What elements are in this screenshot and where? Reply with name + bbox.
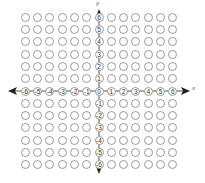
x-tick-label: -2: [69, 87, 80, 96]
y-tick-label: -3: [94, 123, 105, 132]
grid-circle: [58, 99, 67, 108]
y-tick-label: 2: [94, 62, 105, 71]
x-tick-label: 1: [106, 87, 117, 96]
y-tick-label: 3: [94, 50, 105, 59]
grid-circle: [107, 13, 116, 22]
grid-circle: [168, 13, 177, 22]
grid-circle: [45, 136, 54, 145]
grid-circle: [156, 50, 165, 59]
grid-circle: [107, 148, 116, 157]
grid-circle: [144, 74, 153, 83]
grid-circle: [58, 74, 67, 83]
grid-circle: [21, 148, 30, 157]
x-tick-label: 2: [118, 87, 129, 96]
x-tick-label: -4: [44, 87, 55, 96]
grid-circle: [144, 25, 153, 34]
grid-circle: [21, 111, 30, 120]
grid-circle: [156, 25, 165, 34]
grid-circle: [156, 148, 165, 157]
grid-circle: [156, 136, 165, 145]
grid-circle: [119, 136, 128, 145]
grid-circle: [21, 136, 30, 145]
grid-circle: [33, 136, 42, 145]
grid-circle: [107, 74, 116, 83]
y-tick-label: 4: [94, 37, 105, 46]
grid-circle: [70, 148, 79, 157]
grid-circle: [21, 37, 30, 46]
grid-circle: [156, 13, 165, 22]
y-tick-label: -1: [94, 99, 105, 108]
grid-circle: [156, 62, 165, 71]
y-tick-label: -5: [94, 148, 105, 157]
grid-circle: [58, 111, 67, 120]
y-tick-label: -6: [94, 160, 105, 169]
grid-circle: [70, 25, 79, 34]
grid-circle: [21, 160, 30, 169]
grid-circle: [119, 62, 128, 71]
grid-circle: [70, 99, 79, 108]
grid-circle: [82, 99, 91, 108]
grid-circle: [33, 99, 42, 108]
grid-circle: [21, 50, 30, 59]
grid-circle: [168, 50, 177, 59]
grid-circle: [33, 25, 42, 34]
grid-circle: [107, 50, 116, 59]
y-tick-label: 1: [94, 74, 105, 83]
x-tick-label: -5: [32, 87, 43, 96]
grid-circle: [21, 13, 30, 22]
grid-circle: [21, 62, 30, 71]
grid-circle: [144, 111, 153, 120]
grid-circle: [107, 136, 116, 145]
grid-circle: [21, 99, 30, 108]
grid-circle: [144, 136, 153, 145]
grid-circle: [58, 50, 67, 59]
grid-circle: [33, 148, 42, 157]
grid-circle: [70, 136, 79, 145]
y-tick-label: 6: [94, 13, 105, 22]
y-tick-label: -2: [94, 111, 105, 120]
grid-circle: [107, 111, 116, 120]
x-tick-label: -6: [20, 87, 31, 96]
grid-circle: [168, 136, 177, 145]
grid-circle: [58, 62, 67, 71]
grid-circle: [70, 111, 79, 120]
x-tick-label: 4: [143, 87, 154, 96]
grid-circle: [21, 25, 30, 34]
grid-circle: [58, 13, 67, 22]
grid-circle: [107, 62, 116, 71]
grid-circle: [82, 50, 91, 59]
grid-circle: [107, 25, 116, 34]
grid-circle: [70, 62, 79, 71]
grid-circle: [58, 160, 67, 169]
grid-circle: [156, 99, 165, 108]
x-tick-label: 6: [167, 87, 178, 96]
grid-circle: [58, 123, 67, 132]
grid-circle: [82, 13, 91, 22]
grid-circle: [33, 13, 42, 22]
x-axis-label: x: [192, 85, 195, 91]
grid-circle: [21, 74, 30, 83]
grid-circle: [144, 160, 153, 169]
grid-circle: [58, 136, 67, 145]
grid-circle: [144, 37, 153, 46]
grid-circle: [119, 13, 128, 22]
grid-circle: [107, 99, 116, 108]
x-tick-label: 0: [94, 87, 105, 96]
grid-circle: [131, 50, 140, 59]
x-tick-label: -3: [57, 87, 68, 96]
grid-circle: [58, 148, 67, 157]
y-tick-label: -4: [94, 136, 105, 145]
grid-circle: [82, 136, 91, 145]
grid-circle: [119, 99, 128, 108]
grid-circle: [144, 148, 153, 157]
coordinate-grid-diagram: -6-5-4-3-2-10123456654321-1-2-3-4-5-6 y …: [0, 0, 205, 183]
grid-circle: [144, 13, 153, 22]
grid-circle: [45, 13, 54, 22]
grid-circle: [144, 50, 153, 59]
grid-circle: [144, 99, 153, 108]
grid-circle: [119, 50, 128, 59]
x-tick-label: 5: [155, 87, 166, 96]
grid-circle: [70, 13, 79, 22]
grid-circle: [33, 50, 42, 59]
grid-circle: [144, 62, 153, 71]
